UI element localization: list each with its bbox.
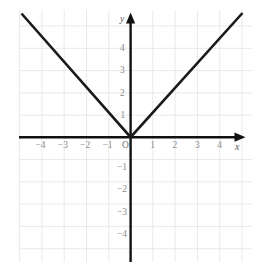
x-axis-label: x [235, 142, 239, 152]
graph-canvas: −4 −3 −2 −1 1 2 3 4 4 3 2 1 −1 −2 −3 −4 … [0, 0, 261, 269]
coordinate-plane-svg [0, 0, 261, 269]
origin-label: O [122, 141, 129, 151]
y-axis-label: y [120, 14, 124, 24]
